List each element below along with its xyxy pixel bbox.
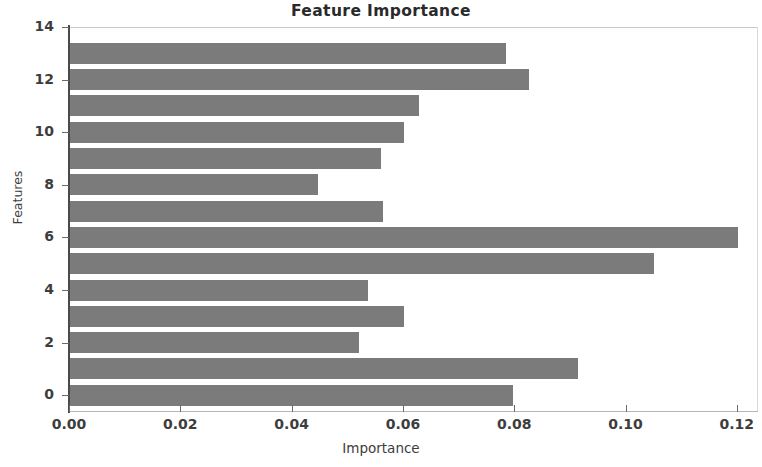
y-tick-mark — [62, 80, 69, 81]
y-tick-mark — [62, 290, 69, 291]
y-tick-label: 12 — [10, 71, 54, 87]
x-tick-mark — [180, 405, 181, 412]
y-tick-label: 4 — [10, 281, 54, 297]
y-tick-label: 10 — [10, 123, 54, 139]
bar — [69, 43, 506, 64]
bar — [69, 201, 383, 222]
x-tick-mark — [69, 405, 70, 412]
bar — [69, 95, 419, 116]
bar — [69, 280, 368, 301]
y-axis-label: Features — [10, 148, 25, 248]
x-axis-label: Importance — [0, 440, 762, 456]
y-tick-mark — [62, 343, 69, 344]
bar — [69, 358, 578, 379]
x-axis-spine — [69, 411, 758, 412]
chart-title: Feature Importance — [0, 2, 762, 20]
x-tick-label: 0.10 — [591, 416, 661, 432]
y-tick-label: 0 — [10, 386, 54, 402]
x-tick-label: 0.04 — [257, 416, 327, 432]
bar — [69, 174, 318, 195]
bar — [69, 253, 654, 274]
x-tick-mark — [514, 405, 515, 412]
bar — [69, 385, 513, 406]
x-tick-label: 0.02 — [145, 416, 215, 432]
x-tick-mark — [403, 405, 404, 412]
y-tick-label: 14 — [10, 18, 54, 34]
x-tick-mark — [292, 405, 293, 412]
x-tick-label: 0.12 — [702, 416, 762, 432]
y-tick-mark — [62, 395, 69, 396]
plot-area — [69, 27, 758, 411]
y-tick-mark — [62, 132, 69, 133]
bar — [69, 332, 359, 353]
bar — [69, 69, 529, 90]
plot-frame-top-spine — [69, 27, 758, 28]
x-tick-mark — [737, 405, 738, 412]
bar — [69, 306, 404, 327]
chart-figure: Feature Importance 0.000.020.040.060.080… — [0, 0, 762, 467]
y-axis-spine — [68, 25, 70, 413]
x-tick-label: 0.06 — [368, 416, 438, 432]
y-tick-mark — [62, 27, 69, 28]
plot-frame-right-spine — [757, 27, 758, 411]
y-tick-label: 2 — [10, 334, 54, 350]
x-tick-mark — [626, 405, 627, 412]
bar — [69, 227, 738, 248]
x-tick-label: 0.08 — [479, 416, 549, 432]
bar — [69, 148, 381, 169]
bar — [69, 122, 404, 143]
y-tick-mark — [62, 237, 69, 238]
x-tick-label: 0.00 — [34, 416, 104, 432]
y-tick-mark — [62, 185, 69, 186]
